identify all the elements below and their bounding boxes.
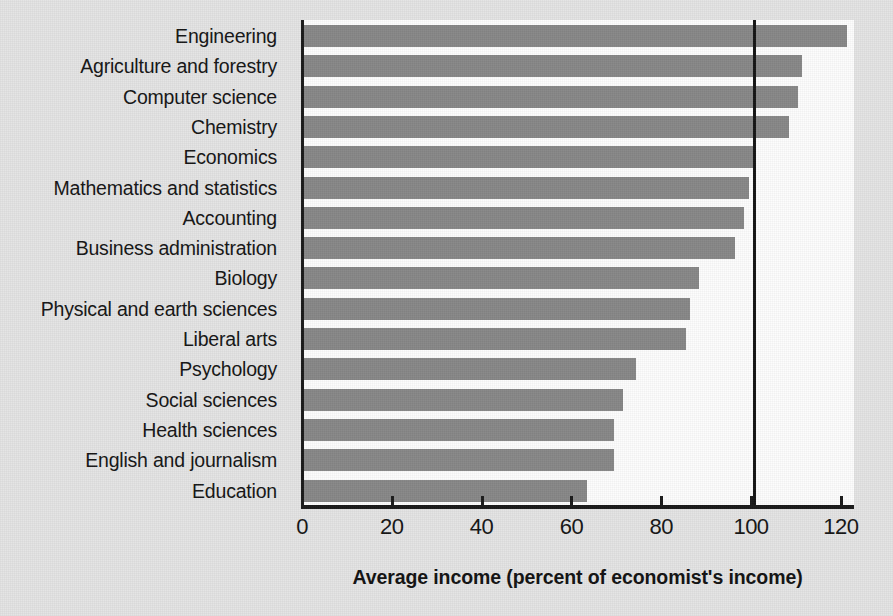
- x-axis-tick-label: 120: [823, 515, 858, 539]
- bar: [304, 419, 614, 441]
- category-label: Liberal arts: [183, 328, 277, 350]
- category-label: Agriculture and forestry: [80, 55, 277, 77]
- category-label: Psychology: [179, 358, 277, 380]
- x-axis-tick-label: 0: [296, 515, 308, 539]
- x-axis-tick: [391, 496, 394, 505]
- category-label: Engineering: [175, 25, 277, 47]
- bar: [304, 480, 587, 502]
- x-axis-title: Average income (percent of economist's i…: [301, 566, 854, 589]
- x-axis-tick-label: 40: [470, 515, 493, 539]
- category-label: Economics: [183, 146, 277, 168]
- reference-line-100: [753, 20, 756, 505]
- bar: [304, 55, 802, 77]
- category-label-column: EngineeringAgriculture and forestryCompu…: [0, 20, 289, 505]
- x-axis-tick-label: 60: [560, 515, 583, 539]
- bar: [304, 358, 636, 380]
- x-axis-tick-label: 80: [649, 515, 672, 539]
- bar: [304, 25, 847, 47]
- category-label: Accounting: [183, 207, 277, 229]
- bar: [304, 298, 690, 320]
- category-label: Mathematics and statistics: [54, 177, 277, 199]
- bar-chart-figure: EngineeringAgriculture and forestryCompu…: [0, 0, 893, 616]
- category-label: Social sciences: [146, 389, 277, 411]
- category-label: Business administration: [76, 237, 277, 259]
- bar: [304, 389, 623, 411]
- category-label: Physical and earth sciences: [41, 298, 277, 320]
- bar: [304, 449, 614, 471]
- x-axis-tick: [750, 496, 753, 505]
- plot-area: [301, 20, 854, 505]
- category-label: Education: [192, 480, 277, 502]
- bar: [304, 86, 798, 108]
- x-axis-line: [301, 505, 854, 509]
- x-axis-tick: [301, 496, 304, 505]
- category-label: Computer science: [123, 86, 277, 108]
- x-axis-tick-label: 100: [733, 515, 768, 539]
- x-axis-tick: [660, 496, 663, 505]
- x-axis-tick-label: 20: [380, 515, 403, 539]
- bar: [304, 146, 753, 168]
- category-label: Biology: [214, 267, 277, 289]
- x-axis-tick: [481, 496, 484, 505]
- x-axis-tick: [840, 496, 843, 505]
- bar: [304, 177, 749, 199]
- bar: [304, 207, 744, 229]
- bar: [304, 116, 789, 138]
- category-label: Chemistry: [191, 116, 277, 138]
- bar: [304, 237, 735, 259]
- category-label: English and journalism: [85, 449, 277, 471]
- category-label: Health sciences: [142, 419, 277, 441]
- x-axis-tick: [570, 496, 573, 505]
- bar: [304, 328, 686, 350]
- bar: [304, 267, 699, 289]
